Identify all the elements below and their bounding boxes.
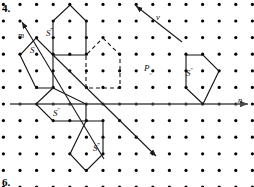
lattice-dot — [201, 185, 204, 187]
lattice-dot — [234, 185, 237, 187]
lattice-dot — [218, 53, 221, 56]
lattice-dot — [201, 136, 204, 139]
lattice-dot — [135, 53, 138, 56]
lattice-dot — [18, 185, 21, 187]
lattice-dot — [251, 19, 254, 22]
lattice-dot — [251, 152, 254, 155]
label-S-right: S″ — [186, 68, 193, 78]
lattice-dot — [234, 169, 237, 172]
lattice-dot — [2, 19, 5, 22]
lattice-dot — [184, 136, 187, 139]
lattice-dot — [35, 152, 38, 155]
lattice-dot — [135, 3, 138, 6]
label-S-triple-prime: S‴ — [46, 28, 53, 38]
polygon-S-triple-prime — [53, 5, 86, 55]
lattice-dot — [2, 169, 5, 172]
lattice-dot — [234, 36, 237, 39]
lattice-dot — [68, 185, 71, 187]
lattice-dot — [201, 86, 204, 89]
lattice-dot — [234, 152, 237, 155]
lattice-dot — [52, 152, 55, 155]
lattice-dot — [101, 185, 104, 187]
lattice-dot — [35, 185, 38, 187]
lattice-dot — [234, 136, 237, 139]
label-S-double-prime-lower-left: S″ — [53, 108, 60, 118]
lattice-dot — [52, 185, 55, 187]
lattice-dot — [135, 36, 138, 39]
lattice-dot — [101, 69, 104, 72]
lattice-dot — [201, 69, 204, 72]
lattice-dot — [118, 185, 121, 187]
lattice-dot — [201, 3, 204, 6]
lattice-dot — [234, 69, 237, 72]
lattice-dot — [218, 119, 221, 122]
vector-m-extension — [53, 55, 156, 156]
lattice-dot — [184, 36, 187, 39]
lattice-dot — [35, 136, 38, 139]
lattice-dot — [18, 119, 21, 122]
lattice-dot — [168, 185, 171, 187]
lattice-dot — [52, 136, 55, 139]
lattice-dot — [184, 169, 187, 172]
lattice-dot — [2, 119, 5, 122]
lattice-dot — [68, 169, 71, 172]
lattice-dot-grid — [2, 3, 254, 187]
lattice-dot — [234, 53, 237, 56]
lattice-dot — [168, 86, 171, 89]
lattice-dot — [251, 169, 254, 172]
lattice-dot — [118, 169, 121, 172]
lattice-dot — [18, 152, 21, 155]
lattice-dot — [85, 152, 88, 155]
lattice-dot — [234, 3, 237, 6]
lattice-dot — [118, 3, 121, 6]
lattice-dot — [184, 3, 187, 6]
lattice-dot — [168, 3, 171, 6]
lattice-dot — [35, 119, 38, 122]
lattice-dot — [2, 136, 5, 139]
lattice-dot — [135, 169, 138, 172]
lattice-dot — [234, 19, 237, 22]
lattice-dot — [151, 3, 154, 6]
lattice-dot — [168, 53, 171, 56]
lattice-dot — [234, 119, 237, 122]
figure-canvas: 4. 6. S‴S′S″S‴S″mvP₀n — [0, 0, 254, 187]
lattice-dot — [251, 36, 254, 39]
lattice-dot — [151, 136, 154, 139]
polygon-S-right — [186, 55, 219, 104]
lattice-dot — [218, 152, 221, 155]
lattice-dot — [68, 136, 71, 139]
lattice-dot — [101, 53, 104, 56]
lattice-dot — [251, 69, 254, 72]
vector-m — [22, 22, 104, 159]
lattice-dot — [151, 119, 154, 122]
label-S-quad-prime-bottom: S‴ — [93, 143, 100, 153]
lattice-dot — [135, 86, 138, 89]
lattice-dot — [2, 3, 5, 6]
label-vector-m: m — [18, 31, 24, 40]
lattice-dot — [101, 169, 104, 172]
lattice-dot — [2, 102, 5, 105]
lattice-dot — [18, 19, 21, 22]
lattice-dot — [151, 86, 154, 89]
label-axis-n: n — [238, 96, 242, 105]
lattice-dot — [151, 185, 154, 187]
lattice-dot — [2, 36, 5, 39]
lattice-dot — [184, 119, 187, 122]
lattice-dot — [201, 36, 204, 39]
lattice-dot — [68, 19, 71, 22]
lattice-dot — [151, 169, 154, 172]
lattice-dot — [135, 152, 138, 155]
lattice-dot — [35, 3, 38, 6]
lattice-dot — [68, 86, 71, 89]
lattice-dot — [168, 136, 171, 139]
lattice-dot — [251, 185, 254, 187]
lattice-dot — [201, 19, 204, 22]
lattice-dot — [151, 36, 154, 39]
lattice-diagram — [0, 0, 254, 187]
polygon-S-dashed — [86, 38, 120, 88]
lattice-dot — [2, 185, 5, 187]
lattice-dot — [168, 119, 171, 122]
lattice-dot — [135, 119, 138, 122]
lattice-dot — [218, 36, 221, 39]
lattice-dot — [35, 53, 38, 56]
